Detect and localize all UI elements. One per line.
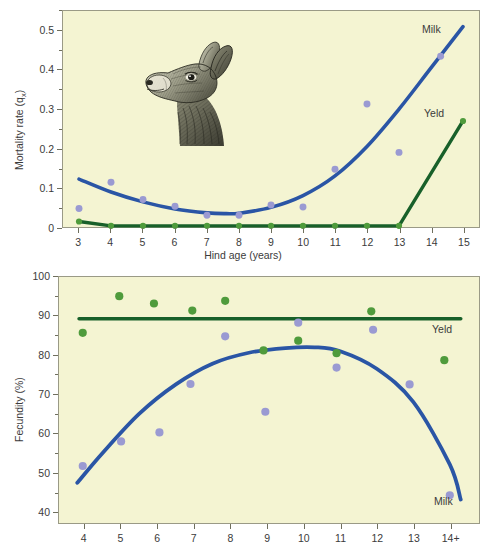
fecundity-y-tickmark [53, 433, 58, 434]
fecundity-y-tickmark [53, 512, 58, 513]
fecundity-milk-point [79, 462, 87, 470]
fecundity-milk-fit-curve [77, 347, 460, 500]
mortality-x-tick-label: 9 [257, 237, 285, 248]
fecundity-plot-svg [59, 277, 479, 523]
fecundity-y-tickmark [53, 394, 58, 395]
fecundity-yeld-point [79, 329, 87, 337]
fecundity-x-tickmark [451, 524, 452, 529]
mortality-plot-svg [63, 11, 479, 227]
fecundity-yeld-point [188, 307, 196, 315]
fecundity-y-tickmark [53, 355, 58, 356]
mortality-x-tick-label: 15 [450, 237, 478, 248]
fecundity-x-tickmark [304, 524, 305, 529]
fecundity-panel: Fecundity (%) Yeld Milk 4050607080901004… [0, 262, 486, 560]
fecundity-x-tickmark [157, 524, 158, 529]
fecundity-x-tick-label: 14+ [435, 533, 467, 544]
fecundity-x-tickmark [84, 524, 85, 529]
mortality-x-tickmark [400, 228, 401, 233]
fecundity-y-tick-label: 70 [14, 389, 50, 400]
mortality-x-tickmark [110, 228, 111, 233]
fecundity-yeld-point [259, 346, 267, 354]
fecundity-y-tickmark [53, 276, 58, 277]
fecundity-x-tick-label: 4 [68, 533, 100, 544]
fecundity-milk-point [261, 408, 269, 416]
fecundity-y-minor-tickmark [55, 296, 58, 297]
mortality-x-tickmark [142, 228, 143, 233]
fecundity-x-tick-label: 11 [325, 533, 357, 544]
mortality-x-tick-label: 10 [289, 237, 317, 248]
mortality-milk-point [236, 212, 243, 219]
fecundity-milk-point [294, 319, 302, 327]
mortality-x-tickmark [464, 228, 465, 233]
fecundity-yeld-point [150, 299, 158, 307]
mortality-y-axis-title: Mortality rate (qx) [14, 90, 28, 170]
fecundity-milk-point [221, 332, 229, 340]
mortality-x-tick-label: 6 [161, 237, 189, 248]
fecundity-x-tickmark [230, 524, 231, 529]
mortality-x-tickmark [239, 228, 240, 233]
mortality-x-tick-label: 7 [193, 237, 221, 248]
fecundity-yeld-point [221, 297, 229, 305]
fecundity-x-tick-label: 8 [214, 533, 246, 544]
fecundity-milk-point [155, 428, 163, 436]
fecundity-plot-area [58, 276, 480, 524]
fecundity-x-tickmark [267, 524, 268, 529]
fecundity-x-tick-label: 7 [178, 533, 210, 544]
fecundity-milk-label: Milk [434, 496, 453, 507]
mortality-milk-label: Milk [422, 24, 441, 35]
fecundity-y-minor-tickmark [55, 453, 58, 454]
mortality-x-tick-label: 11 [321, 237, 349, 248]
fecundity-y-tick-label: 60 [14, 428, 50, 439]
fecundity-x-tick-label: 12 [361, 533, 393, 544]
mortality-y-tick-label: 0.4 [20, 64, 54, 75]
mortality-y-minor-tickmark [59, 169, 62, 170]
mortality-x-axis-title: Hind age (years) [0, 250, 486, 261]
mortality-milk-point [332, 166, 339, 173]
fecundity-x-tickmark [414, 524, 415, 529]
mortality-panel: Mortality rate (qx) Hind age (years) Mil… [0, 0, 486, 262]
mortality-y-minor-tickmark [59, 89, 62, 90]
fecundity-y-tick-label: 80 [14, 350, 50, 361]
mortality-milk-point [140, 196, 147, 203]
mortality-x-tickmark [367, 228, 368, 233]
mortality-milk-point [364, 101, 371, 108]
fecundity-x-tick-label: 5 [104, 533, 136, 544]
mortality-x-tickmark [271, 228, 272, 233]
fecundity-milk-point [117, 437, 125, 445]
mortality-y-tickmark [57, 109, 62, 110]
deer-life-history-figure: Mortality rate (qx) Hind age (years) Mil… [0, 0, 486, 560]
mortality-yeld-label: Yeld [424, 108, 444, 119]
fecundity-y-tickmark [53, 315, 58, 316]
fecundity-y-tick-label: 90 [14, 310, 50, 321]
mortality-x-tickmark [303, 228, 304, 233]
fecundity-milk-point [406, 380, 414, 388]
fecundity-x-tick-label: 10 [288, 533, 320, 544]
mortality-x-tick-label: 4 [96, 237, 124, 248]
mortality-y-minor-tickmark [59, 208, 62, 209]
fecundity-yeld-point [367, 307, 375, 315]
mortality-y-axis-title-close: ) [13, 90, 25, 94]
mortality-x-tick-label: 12 [353, 237, 381, 248]
mortality-milk-point [204, 212, 211, 219]
mortality-x-tickmark [175, 228, 176, 233]
mortality-milk-point [268, 202, 275, 209]
red-deer-hind-illustration [133, 34, 237, 146]
mortality-x-tick-label: 13 [386, 237, 414, 248]
mortality-yeld-point [460, 118, 466, 124]
mortality-y-tick-label: 0.1 [20, 183, 54, 194]
fecundity-x-tick-label: 6 [141, 533, 173, 544]
fecundity-x-tickmark [377, 524, 378, 529]
fecundity-x-tick-label: 9 [251, 533, 283, 544]
fecundity-yeld-point [115, 292, 123, 300]
mortality-milk-point [172, 203, 179, 210]
fecundity-milk-point [369, 326, 377, 334]
mortality-milk-point [76, 205, 83, 212]
fecundity-y-minor-tickmark [55, 335, 58, 336]
mortality-y-tick-label: 0.5 [20, 25, 54, 36]
mortality-y-tick-label: 0 [20, 223, 54, 234]
mortality-x-tick-label: 5 [128, 237, 156, 248]
fecundity-y-minor-tickmark [55, 374, 58, 375]
mortality-y-tick-label: 0.3 [20, 104, 54, 115]
mortality-y-tickmark [57, 30, 62, 31]
fecundity-yeld-point [294, 337, 302, 345]
